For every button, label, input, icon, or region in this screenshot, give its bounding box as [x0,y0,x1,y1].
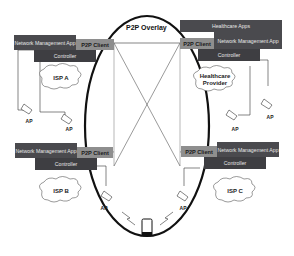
ap-icon [226,110,237,120]
controller-box: Controller [204,157,266,169]
ap-label: AP [97,205,111,211]
cloud-label: ISP A [46,75,76,82]
network-management-app-box: Network Management App [217,142,279,157]
ap-label: AP [263,114,277,120]
mobile-phone-icon [142,219,152,236]
cloud-label: ISP B [46,188,76,195]
ap-icon [101,191,112,201]
ap-icon [177,191,188,201]
cloud-label: ISP C [220,188,250,195]
ap-label: AP [22,118,36,124]
p2p-client-box: P2P Client [76,39,114,50]
p2p-overlay-diagram: P2P Overlay Network Management App P2P C… [0,0,294,256]
controller-box: Controller [198,49,260,61]
ap-icon [61,114,72,124]
ap-label: AP [62,126,76,132]
controller-box: Controller [35,158,97,170]
p2p-client-box: P2P Client [181,146,217,157]
network-management-app-box: Network Management App [15,143,77,158]
cloud-label: Healthcare Provider [198,73,232,87]
network-management-app-box: Network Management App [14,35,76,50]
p2p-client-box: P2P Client [77,147,113,158]
ap-label: AP [176,205,190,211]
controller-box: Controller [34,50,96,62]
ap-icon [261,99,272,109]
ap-label: AP [228,126,242,132]
healthcare-apps-box: Healthcare Apps [180,20,282,32]
ap-icon [21,104,32,114]
p2p-client-box: P2P Client [180,38,214,49]
overlay-title: P2P Overlay [126,24,167,31]
network-management-app-box: Network Management App [214,32,282,49]
